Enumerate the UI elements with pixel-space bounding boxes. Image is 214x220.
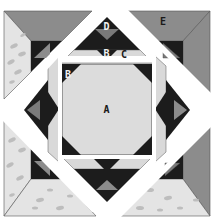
label-b-top: B xyxy=(104,48,110,59)
quilt-block-diagram: D B C B A E xyxy=(0,0,214,220)
label-e: E xyxy=(160,16,166,27)
label-b-left: B xyxy=(65,69,71,80)
label-a: A xyxy=(104,104,110,115)
quilt-svg: D B C B A E xyxy=(0,0,214,220)
label-d: D xyxy=(104,21,110,32)
label-c: C xyxy=(121,49,127,60)
